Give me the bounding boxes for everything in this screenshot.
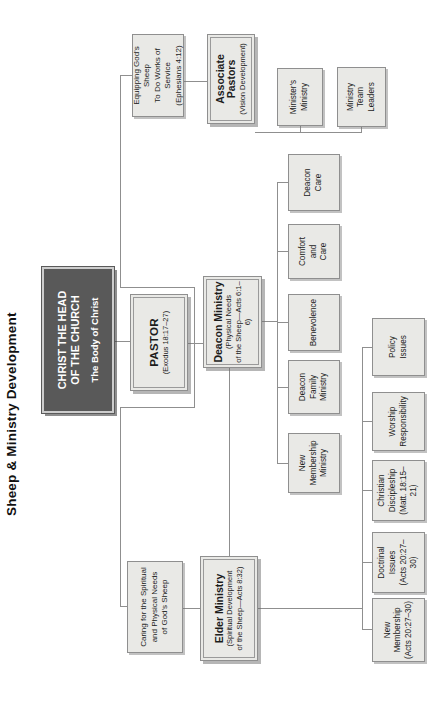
box-line: Team [356,87,367,107]
deacon-title: Deacon Ministry [213,281,225,362]
caring-line1: Caring for the Spiritual [139,567,149,647]
box-line: Discipleship [388,469,399,513]
connector-line [362,347,372,348]
box-line: and [309,245,320,259]
org-chart-rotated-stage: Sheep & Ministry Development CHRIS [0,0,444,701]
elder-ministry-box: Elder Ministry (Spiritual Development of… [200,556,258,661]
benevolence-box: Benevolence [288,294,340,351]
equipping-line3: (Ephesians 4:12) [174,45,184,105]
worship-responsibility-box: Worship Responsibility [372,392,425,451]
connector-line [362,421,372,422]
caring-line3: of God's Sheep [160,580,170,635]
box-line: New [383,622,394,638]
policy-issues-box: Policy Issues [372,318,425,376]
box-line: Ministry [300,83,311,111]
christ-subtitle: The Body of Christ [89,298,100,383]
box-line: Deacon [298,373,309,401]
box-line: Leaders [367,82,378,112]
connector-line [362,347,363,630]
comfort-and-care-box: Comfort and Care [288,224,340,279]
connector-line [277,463,288,464]
connector-line [120,287,195,288]
connector-line [188,343,203,344]
new-membership-acts-box: New Membership (Acts 20:27–30) [372,598,425,662]
connector-line [194,287,195,408]
associate-title: Associate Pastors [215,37,238,121]
ministry-team-leaders-box: Ministry Team Leaders [337,67,386,127]
pastor-ref: (Exodus 18:17–27) [161,311,170,374]
box-line: Minister's [289,80,300,114]
christ-line2: OF THE CHURCH [69,295,82,384]
box-line: Ministry [319,449,330,477]
deacon-ministry-box: Deacon Ministry (Physical Needs of the S… [203,276,262,368]
box-line: Ministry [319,373,330,401]
box-line: Christian [377,474,388,506]
chart-title: Sheep & Ministry Development [4,312,19,516]
box-line: Responsibility [399,396,410,447]
box-line: (Matt. 18:15–21) [399,463,420,518]
box-line: Issues [388,551,399,575]
deacon-care-box: Deacon Care [288,154,340,211]
connector-line [277,182,288,183]
box-line: Care [314,174,325,192]
box-line: Deacon [303,168,314,196]
connector-line [262,321,277,322]
box-line: Policy [388,336,399,358]
connector-line [183,608,200,609]
pastor-box: PASTOR (Exodus 18:17–27) [130,294,188,391]
box-line: (Acts 20:27–30) [404,601,415,659]
connector-line [277,251,288,252]
connector-line [362,562,372,563]
elder-ref2: of the Sheep—Acts 8:32) [235,567,244,651]
connector-line [229,368,230,556]
connector-line [120,407,121,606]
deacon-ref2: of the Sheep—Acts 6:1–6) [234,279,253,365]
connector-line [277,387,288,388]
connector-line [277,322,288,323]
box-line: Issues [399,335,410,359]
caring-line2: and Physical Needs [150,572,160,643]
connector-line [114,341,130,342]
box-line: New [298,455,309,471]
christian-discipleship-box: Christian Discipleship (Matt. 18:15–21) [372,460,425,521]
ministers-ministry-box: Minister's Ministry [277,68,323,126]
connector-line [120,75,121,288]
connector-line [184,81,207,82]
connector-line [300,125,301,133]
deacon-family-ministry-box: Deacon Family Ministry [288,360,340,414]
scanned-page: { "title": "Sheep & Ministry Development… [0,0,444,701]
elder-title: Elder Ministry [214,574,226,643]
connector-line [120,407,195,408]
elder-ref1: (Spiritual Development [225,571,234,647]
deacon-ref1: (Physical Needs [224,295,233,349]
connector-line [362,490,372,491]
connector-line [258,608,362,609]
box-line: Membership [393,607,404,652]
box-line: Membership [309,440,320,485]
associate-pastors-box: Associate Pastors (Vision Development) [207,34,255,124]
christ-head-box: CHRIST THE HEAD OF THE CHURCH The Body o… [42,267,114,413]
connector-line [362,629,372,630]
box-line: Worship [388,407,399,437]
equipping-line1: Equipping God's Sheep [132,37,153,114]
box-line: Care [319,243,330,261]
pastor-title: PASTOR [148,318,161,367]
box-line: Ministry [346,83,357,111]
doctrinal-issues-box: Doctrinal Issues (Acts 20:27–30) [372,532,425,593]
box-line: Comfort [298,237,309,266]
box-line: Family [309,375,320,399]
box-line: Doctrinal [377,546,388,578]
box-line: (Acts 20:27–30) [399,535,420,590]
caring-callout-box: Caring for the Spiritual and Physical Ne… [127,561,183,653]
equipping-callout-box: Equipping God's Sheep To Do Works of Ser… [132,34,184,117]
connector-line [255,132,362,133]
new-membership-ministry-box: New Membership Ministry [288,433,340,493]
equipping-line2: To Do Works of Service [153,37,174,114]
associate-ref: (Vision Development) [238,43,247,115]
connector-line [277,182,278,464]
connector-line [361,126,362,133]
box-line: Benevolence [309,299,320,346]
christ-line1: CHRIST THE HEAD [56,291,69,389]
